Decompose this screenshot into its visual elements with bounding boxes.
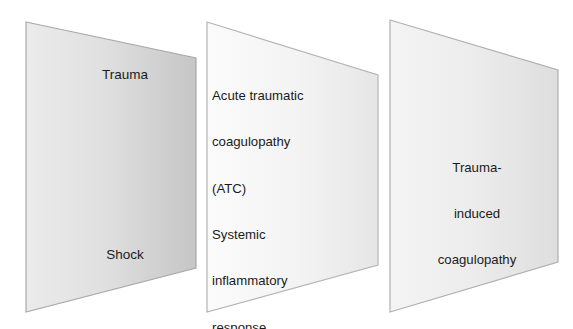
mechanism-line: coagulopathy	[212, 134, 313, 149]
mechanism-line: (ATC)	[212, 181, 313, 196]
panel-outcome[interactable]: Trauma- induced coagulopathy	[382, 0, 573, 329]
outcome-line: Trauma-	[396, 160, 558, 175]
outcome-label: Trauma- induced coagulopathy	[396, 130, 558, 297]
panel-insults[interactable]: Trauma Shock	[18, 0, 208, 329]
mechanism-line: Systemic	[212, 227, 313, 242]
label-shock: Shock	[40, 248, 210, 262]
panel-mechanisms[interactable]: Acute traumatic coagulopathy (ATC) Syste…	[200, 0, 390, 329]
outcome-line: coagulopathy	[396, 252, 558, 267]
mechanisms-list: Acute traumatic coagulopathy (ATC) Syste…	[212, 57, 313, 329]
label-trauma: Trauma	[40, 68, 210, 82]
mechanism-line: inflammatory	[212, 273, 313, 288]
mechanism-line: Acute traumatic	[212, 88, 313, 103]
mechanism-line: response	[212, 320, 313, 329]
diagram-canvas: Trauma Shock Acute traumatic coagulopath…	[0, 0, 573, 329]
panel-insults-shape	[18, 0, 208, 329]
outcome-line: induced	[396, 206, 558, 221]
